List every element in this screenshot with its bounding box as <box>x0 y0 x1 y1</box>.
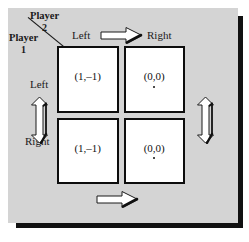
matrix-cell-right-left: (1,–1) <box>57 118 119 185</box>
matrix-cell-left-left: (1,–1) <box>57 46 119 113</box>
payoff-value: (0,0) <box>144 142 165 154</box>
row-header-left: Left <box>30 79 48 90</box>
arrow-right-icon <box>100 26 144 46</box>
column-player-name: Player <box>30 10 59 21</box>
payoff-matrix-grid: (1,–1) (0,0) (1,–1) (0,0) <box>57 46 185 184</box>
column-header-left: Left <box>72 30 90 41</box>
row-player-number: 1 <box>9 45 38 55</box>
best-response-dot <box>153 157 155 159</box>
panel-shadow-right <box>238 16 243 228</box>
payoff-value: (1,–1) <box>74 70 101 82</box>
column-player-number: 2 <box>30 23 59 33</box>
column-player-label: Player 2 <box>30 11 59 33</box>
panel-shadow-bottom <box>16 223 243 228</box>
matrix-cell-left-right: (0,0) <box>124 46 186 113</box>
row-player-name: Player <box>9 32 38 43</box>
payoff-value: (1,–1) <box>74 142 101 154</box>
column-header-right: Right <box>147 30 171 41</box>
best-response-dot <box>153 86 155 88</box>
matrix-cell-right-right: (0,0) <box>124 118 186 185</box>
arrow-right-icon <box>96 190 140 210</box>
row-player-label: Player 1 <box>9 33 38 55</box>
arrow-up-down-icon <box>196 96 218 144</box>
payoff-value: (0,0) <box>144 70 165 82</box>
arrow-up-down-icon <box>30 96 52 144</box>
payoff-matrix-figure: Player 2 Player 1 Left Right Left Right … <box>0 0 249 242</box>
